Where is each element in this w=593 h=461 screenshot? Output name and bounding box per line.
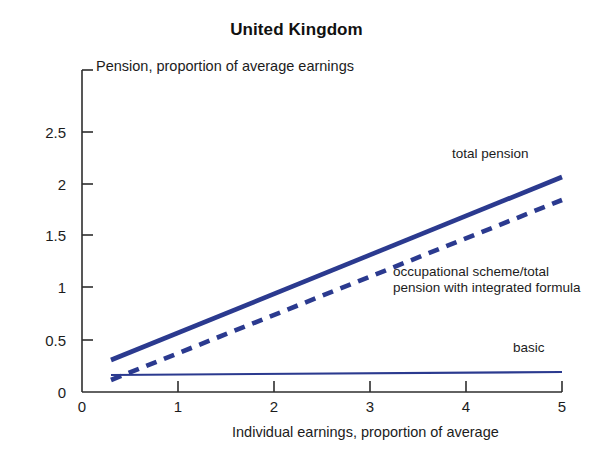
series-basic-line bbox=[111, 372, 562, 375]
x-axis-ticks bbox=[178, 381, 562, 392]
series-label-total-pension: total pension bbox=[452, 146, 529, 162]
y-axis-ticks bbox=[82, 70, 93, 340]
chart-figure: United Kingdom Pension, proportion of av… bbox=[0, 0, 593, 461]
series-label-basic: basic bbox=[513, 340, 545, 356]
series-label-occupational-scheme: occupational scheme/total pension with i… bbox=[393, 264, 581, 296]
plot-area bbox=[0, 0, 593, 461]
series-label-occupational-line2: pension with integrated formula bbox=[393, 280, 581, 295]
series-label-occupational-line1: occupational scheme/total bbox=[393, 264, 549, 279]
